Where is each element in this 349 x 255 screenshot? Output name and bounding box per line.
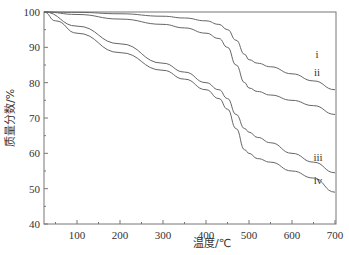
x-axis-title: 温度/℃ — [193, 236, 231, 250]
series-line-iv — [44, 12, 335, 192]
y-tick-label: 90 — [29, 41, 41, 53]
series-label-iv: iv — [314, 174, 323, 186]
series-label-i: i — [315, 48, 318, 60]
x-tick-label: 300 — [155, 229, 172, 241]
plot-area: 405060708090100100200300400500600700iiii… — [24, 6, 344, 241]
series-line-i — [44, 12, 335, 90]
x-tick-label: 600 — [284, 229, 301, 241]
y-tick-label: 60 — [29, 147, 41, 159]
series-line-iii — [44, 12, 335, 173]
x-tick-label: 500 — [241, 229, 258, 241]
series-label-iii: iii — [313, 151, 322, 163]
y-tick-label: 50 — [29, 183, 41, 195]
x-tick-label: 700 — [327, 229, 344, 241]
y-axis-title: 质量分数/% — [4, 89, 17, 147]
x-tick-label: 200 — [112, 229, 129, 241]
y-tick-label: 40 — [29, 218, 41, 230]
y-tick-label: 80 — [29, 77, 41, 89]
x-tick-label: 100 — [69, 229, 86, 241]
y-tick-label: 70 — [29, 112, 41, 124]
series-line-ii — [44, 12, 335, 114]
y-tick-label: 100 — [24, 6, 41, 18]
tga-line-chart: 405060708090100100200300400500600700iiii… — [0, 0, 349, 255]
series-label-ii: ii — [314, 66, 320, 78]
plot-frame — [44, 12, 336, 224]
